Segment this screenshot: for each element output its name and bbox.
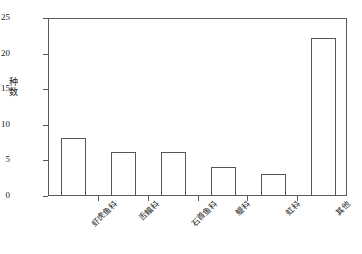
x-axis-tick-label: 舌鳎科 (138, 200, 161, 223)
bar-chart-figure: 种 数 0510152025 虾虎鱼科舌鳎科石首鱼科鳀科虹科其他 (0, 0, 362, 254)
bar (211, 167, 236, 195)
y-axis-tick-label: 0 (0, 191, 10, 200)
y-axis-tick-mark (43, 196, 48, 197)
y-axis-tick-label: 25 (0, 13, 10, 22)
bar (111, 152, 136, 195)
bar (161, 152, 186, 195)
x-axis-tick-mark (198, 196, 199, 201)
x-axis-tick-label: 石首鱼科 (190, 200, 218, 228)
bar (311, 38, 336, 195)
x-axis-tick-mark (297, 196, 298, 201)
x-axis-tick-label: 虹科 (285, 200, 302, 217)
x-axis-tick-mark (148, 196, 149, 201)
plot-area (48, 18, 347, 196)
y-axis-tick-label: 15 (0, 84, 10, 93)
y-axis-tick-label: 5 (0, 155, 10, 164)
y-axis-tick-label: 10 (0, 120, 10, 129)
y-axis-tick-label: 20 (0, 49, 10, 58)
x-axis-tick-label: 鳀科 (235, 200, 252, 217)
bar (261, 174, 286, 195)
x-axis-tick-label: 其他 (335, 200, 352, 217)
bar (61, 138, 86, 195)
bars-layer (49, 19, 346, 195)
x-axis-tick-mark (98, 196, 99, 201)
x-axis-tick-label: 虾虎鱼科 (90, 200, 118, 228)
x-axis-tick-mark (247, 196, 248, 201)
